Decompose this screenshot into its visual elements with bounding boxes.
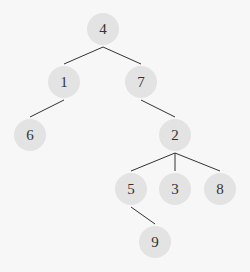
node-label: 4 (99, 21, 107, 37)
node-label: 2 (171, 127, 179, 143)
tree-edge (64, 47, 103, 64)
tree-edge (141, 100, 175, 117)
tree-node-9: 9 (139, 226, 171, 258)
tree-node-5: 5 (115, 173, 147, 205)
tree-nodes: 417625389 (14, 13, 236, 258)
tree-node-2: 2 (159, 119, 191, 151)
tree-diagram: 417625389 (0, 0, 250, 272)
tree-node-4: 4 (87, 13, 119, 45)
tree-edge (30, 100, 64, 117)
tree-node-1: 1 (48, 66, 80, 98)
node-label: 3 (171, 181, 179, 197)
tree-node-8: 8 (204, 173, 236, 205)
node-label: 7 (137, 74, 145, 90)
tree-node-3: 3 (159, 173, 191, 205)
tree-node-6: 6 (14, 119, 46, 151)
node-label: 8 (216, 181, 224, 197)
node-label: 9 (151, 234, 159, 250)
tree-node-7: 7 (125, 66, 157, 98)
tree-edge (175, 153, 220, 171)
node-label: 6 (26, 127, 34, 143)
node-label: 5 (127, 181, 135, 197)
tree-edge (131, 153, 175, 171)
node-label: 1 (60, 74, 68, 90)
tree-edge (103, 47, 141, 64)
tree-edge (131, 207, 155, 224)
